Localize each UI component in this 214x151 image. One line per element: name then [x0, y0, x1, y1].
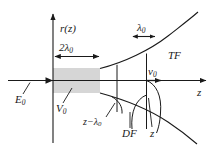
- df-label: DF: [122, 128, 137, 139]
- z-axis-label: z: [197, 87, 201, 98]
- tf-label: TF: [168, 50, 181, 61]
- z-front-label: z: [150, 128, 154, 139]
- two-lambda-label: 2λ0: [59, 42, 73, 54]
- r-axis-label: r(z): [60, 23, 76, 34]
- upper-envelope-curve: [100, 12, 198, 69]
- diagram-canvas: [0, 0, 214, 151]
- z-minus-lambda-label: z−λ0: [83, 117, 101, 128]
- physics-diagram-figure: r(z) z 2λ0 λ0 TF v0 E0 V0 z−λ0 DF z: [0, 0, 214, 151]
- z-minus-lambda-leader-line: [106, 103, 115, 117]
- wavefront-arc-df: [132, 95, 147, 129]
- v0-velocity-label: v0: [148, 66, 157, 78]
- injection-arrowhead: [46, 77, 54, 83]
- v0-source-label: V0: [56, 103, 66, 115]
- wavefront-arc-z: [147, 81, 161, 134]
- e0-leader-line: [23, 83, 30, 95]
- lambda-label: λ0: [137, 22, 146, 34]
- e0-label: E0: [15, 94, 25, 106]
